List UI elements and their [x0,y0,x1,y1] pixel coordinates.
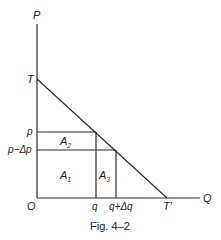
t-label: T [27,73,35,85]
p-axis-label: P [33,9,41,21]
q-label: q [92,201,98,212]
region-a3-label: A3 [98,169,110,183]
figure-caption: Fig. 4–2 [90,220,130,232]
region-a2-label: A2 [59,135,71,149]
origin-label: O [27,200,36,212]
demand-diagram: P Q O T T′ p p−Δp q q+Δq A2 A1 A3 Fig. 4… [0,0,221,240]
t-prime-label: T′ [163,200,173,212]
q-plus-dq-label: q+Δq [109,201,133,212]
q-axis-label: Q [203,192,212,204]
p-minus-dp-label: p−Δp [7,144,32,155]
region-a1-label: A1 [59,169,71,183]
p-label: p [26,126,33,137]
